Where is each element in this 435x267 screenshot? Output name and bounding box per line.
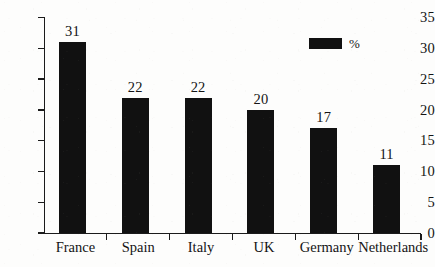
x-axis-category-label-france: France xyxy=(44,240,107,255)
y-axis-tick xyxy=(38,202,44,203)
y-axis-tick-label: 30 xyxy=(401,41,435,56)
legend: % xyxy=(309,37,360,50)
plot-area: 05101520253035 31France22Spain22Italy20U… xyxy=(0,0,435,267)
bar-italy xyxy=(185,98,212,233)
legend-swatch-percent xyxy=(309,38,342,49)
y-axis-tick-label: 25 xyxy=(401,72,435,87)
bar-spain xyxy=(122,98,149,233)
y-axis-tick-label: 10 xyxy=(401,164,435,179)
bar-value-label-netherlands: 11 xyxy=(353,147,420,162)
y-axis-tick xyxy=(38,140,44,141)
x-axis-tick xyxy=(232,234,233,240)
y-axis-tick xyxy=(38,232,44,233)
legend-label-percent: % xyxy=(349,37,360,50)
bar-value-label-germany: 17 xyxy=(290,110,357,125)
x-axis-tick xyxy=(169,234,170,240)
y-axis-tick-label: 5 xyxy=(401,195,435,210)
x-axis-category-label-uk: UK xyxy=(233,240,296,255)
x-axis-category-label-netherlands: Netherlands xyxy=(358,240,421,255)
x-axis-category-label-germany: Germany xyxy=(295,240,358,255)
x-axis-tick xyxy=(295,234,296,240)
bar-value-label-uk: 20 xyxy=(227,92,294,107)
y-axis-line xyxy=(44,17,45,234)
y-axis-tick-label: 35 xyxy=(401,10,435,25)
x-axis-category-label-spain: Spain xyxy=(107,240,170,255)
y-axis-tick-label: 20 xyxy=(401,103,435,118)
y-axis-tick xyxy=(38,171,44,172)
bar-uk xyxy=(247,110,274,233)
x-axis-tick xyxy=(106,234,107,240)
y-axis-tick xyxy=(38,78,44,79)
bar-netherlands xyxy=(373,165,400,233)
x-axis-category-label-italy: Italy xyxy=(170,240,233,255)
y-axis-tick-label: 15 xyxy=(401,133,435,148)
bar-value-label-france: 31 xyxy=(39,24,106,39)
y-axis-tick xyxy=(38,109,44,110)
y-axis-tick xyxy=(38,48,44,49)
bar-germany xyxy=(310,128,337,233)
bar-value-label-italy: 22 xyxy=(165,80,232,95)
bar-france xyxy=(59,42,86,233)
y-axis-tick xyxy=(38,17,44,18)
bar-value-label-spain: 22 xyxy=(102,80,169,95)
bar-chart: 05101520253035 31France22Spain22Italy20U… xyxy=(0,0,435,267)
